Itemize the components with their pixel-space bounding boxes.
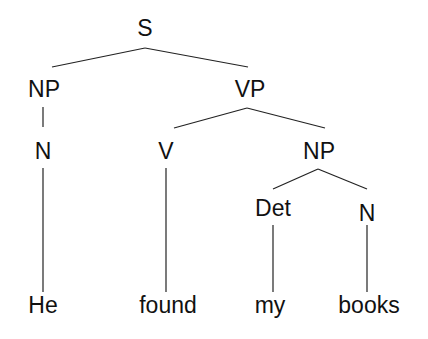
edge-s-vp — [145, 48, 248, 67]
edge-vp-v — [174, 108, 247, 128]
node-s: S — [137, 15, 152, 41]
node-vp: VP — [235, 76, 266, 102]
node-n-object: N — [359, 200, 376, 226]
syntax-tree: S NP VP N V NP Det N He found my books — [0, 0, 428, 339]
edge-vp-np — [247, 108, 325, 128]
node-n-subject: N — [35, 138, 52, 164]
edge-np-n2 — [318, 169, 367, 189]
word-my: my — [255, 292, 286, 318]
edge-s-np — [52, 48, 145, 67]
node-np-object: NP — [303, 138, 335, 164]
edge-np-det — [273, 169, 318, 189]
node-np-subject: NP — [28, 76, 60, 102]
word-he: He — [28, 292, 57, 318]
word-found: found — [139, 292, 197, 318]
node-v: V — [158, 138, 174, 164]
node-det: Det — [255, 195, 291, 221]
word-books: books — [338, 292, 399, 318]
